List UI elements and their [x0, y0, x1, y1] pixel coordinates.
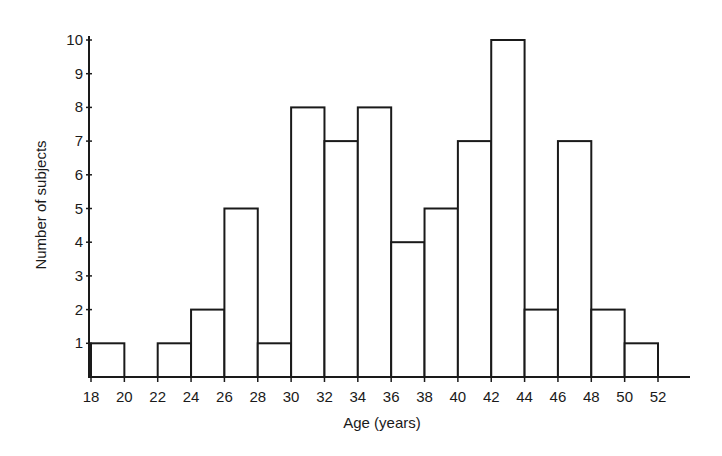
y-tick-label: 2: [75, 301, 83, 318]
histogram-bar: [525, 310, 558, 377]
x-tick-label: 44: [516, 388, 533, 405]
histogram-bar: [625, 343, 658, 377]
x-tick-label: 28: [249, 388, 266, 405]
y-tick-label: 3: [75, 267, 83, 284]
x-tick-label: 46: [550, 388, 567, 405]
histogram-chart: 12345678910 1820222426283032343638404244…: [0, 0, 722, 456]
y-tick-label: 10: [66, 31, 83, 48]
x-tick-label: 42: [483, 388, 500, 405]
x-tick-label: 24: [183, 388, 200, 405]
x-tick-label: 30: [283, 388, 300, 405]
histogram-bar: [191, 310, 224, 377]
y-tick-label: 9: [75, 65, 83, 82]
histogram-bar: [358, 107, 391, 377]
x-tick-label: 40: [450, 388, 467, 405]
histogram-bars: [91, 40, 658, 377]
histogram-bar: [158, 343, 191, 377]
y-tick-label: 8: [75, 98, 83, 115]
y-tick-label: 5: [75, 200, 83, 217]
histogram-bar: [258, 343, 291, 377]
histogram-bar: [291, 107, 324, 377]
x-tick-label: 26: [216, 388, 233, 405]
histogram-bar: [391, 242, 424, 377]
x-tick-label: 22: [149, 388, 166, 405]
histogram-bar: [458, 141, 491, 377]
histogram-bar: [91, 343, 124, 377]
histogram-bar: [591, 310, 624, 377]
x-tick-label: 20: [116, 388, 133, 405]
x-tick-label: 50: [616, 388, 633, 405]
x-tick-label: 36: [383, 388, 400, 405]
y-tick-label: 6: [75, 166, 83, 183]
y-tick-label: 4: [75, 233, 83, 250]
x-axis-title: Age (years): [343, 414, 421, 431]
histogram-bar: [324, 141, 357, 377]
histogram-bar: [224, 209, 257, 378]
x-axis-ticks: 182022242628303234363840424446485052: [83, 377, 667, 405]
x-tick-label: 38: [416, 388, 433, 405]
x-tick-label: 48: [583, 388, 600, 405]
y-tick-label: 7: [75, 132, 83, 149]
histogram-bar: [558, 141, 591, 377]
x-tick-label: 34: [349, 388, 366, 405]
x-tick-label: 32: [316, 388, 333, 405]
x-tick-label: 18: [83, 388, 100, 405]
y-tick-label: 1: [75, 334, 83, 351]
histogram-bar: [491, 40, 524, 377]
histogram-bar: [425, 209, 458, 378]
x-tick-label: 52: [650, 388, 667, 405]
y-axis-title: Number of subjects: [32, 140, 49, 269]
